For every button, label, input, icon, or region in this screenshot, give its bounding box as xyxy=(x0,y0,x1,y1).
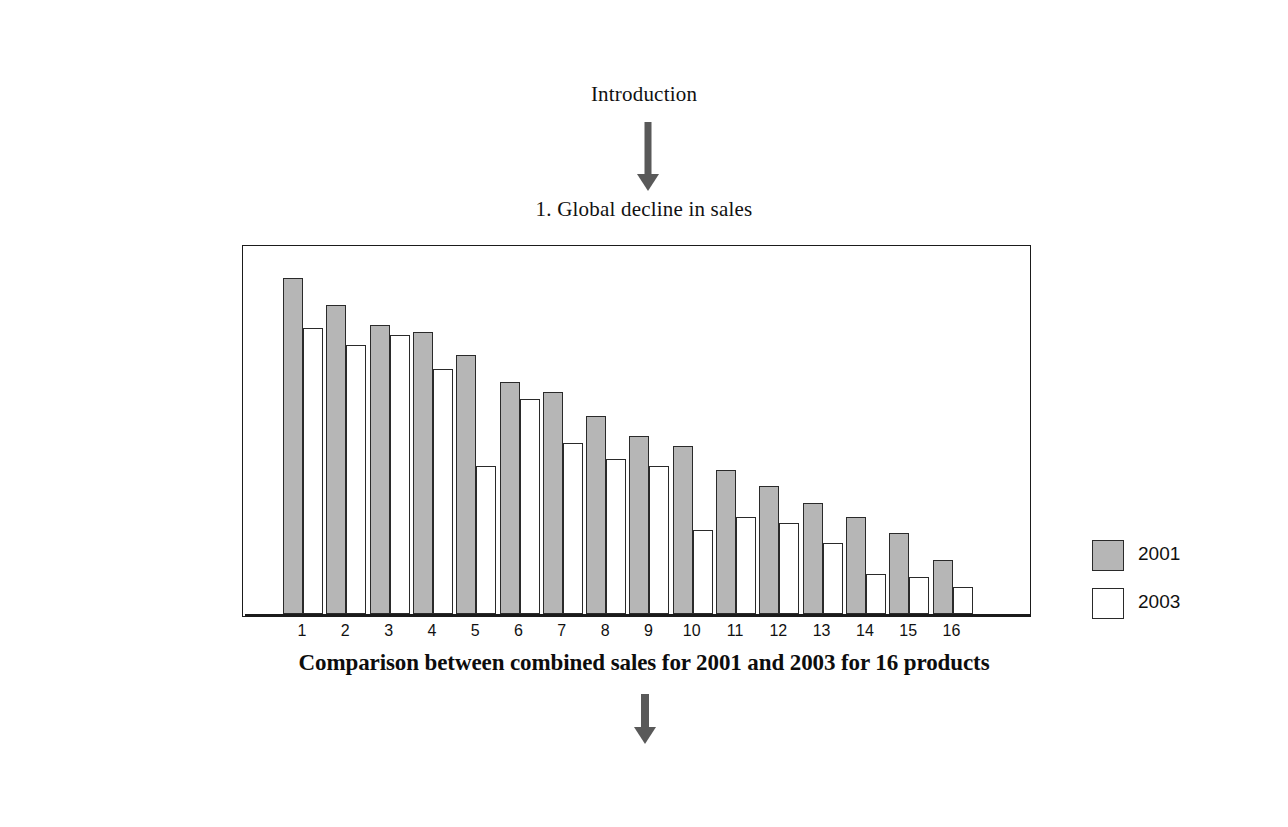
x-tick-label-7: 7 xyxy=(542,622,582,640)
bar-2001-4 xyxy=(413,332,433,614)
x-tick-label-5: 5 xyxy=(455,622,495,640)
x-tick-label-13: 13 xyxy=(802,622,842,640)
bar-2003-13 xyxy=(823,543,843,614)
bar-2001-15 xyxy=(889,533,909,614)
x-tick-label-14: 14 xyxy=(845,622,885,640)
bar-2003-4 xyxy=(433,369,453,614)
down-arrow-icon-top xyxy=(634,122,662,192)
x-tick-label-6: 6 xyxy=(499,622,539,640)
x-tick-label-1: 1 xyxy=(282,622,322,640)
bar-2001-13 xyxy=(803,503,823,614)
bar-2003-6 xyxy=(520,399,540,614)
bar-2001-12 xyxy=(759,486,779,614)
bar-2001-11 xyxy=(716,470,736,614)
x-tick-label-4: 4 xyxy=(412,622,452,640)
x-tick-label-9: 9 xyxy=(628,622,668,640)
bar-2003-5 xyxy=(476,466,496,614)
arrow-head xyxy=(634,727,656,744)
bar-2003-10 xyxy=(693,530,713,614)
x-axis-line xyxy=(245,614,1030,617)
legend-label-2003: 2003 xyxy=(1138,591,1180,613)
bar-2001-7 xyxy=(543,392,563,614)
arrow-shaft xyxy=(641,694,649,730)
bar-2003-7 xyxy=(563,443,583,614)
slide-page: Introduction 1. Global decline in sales … xyxy=(0,0,1288,827)
x-tick-label-3: 3 xyxy=(369,622,409,640)
bar-2003-15 xyxy=(909,577,929,614)
intro-heading: Introduction xyxy=(0,82,1288,107)
legend-label-2001: 2001 xyxy=(1138,543,1180,565)
plot-area xyxy=(243,246,1032,618)
bar-2003-2 xyxy=(346,345,366,614)
arrow-head xyxy=(637,174,659,191)
arrow-shaft xyxy=(645,122,652,177)
bar-2003-12 xyxy=(779,523,799,614)
chart-frame: 2001 2003 xyxy=(242,245,1031,617)
legend-swatch-2003 xyxy=(1092,588,1124,619)
x-tick-label-2: 2 xyxy=(325,622,365,640)
legend-swatch-2001 xyxy=(1092,540,1124,571)
section-heading: 1. Global decline in sales xyxy=(0,197,1288,222)
bar-2003-14 xyxy=(866,574,886,614)
bar-2001-16 xyxy=(933,560,953,614)
bar-2003-11 xyxy=(736,517,756,614)
bar-2001-6 xyxy=(500,382,520,614)
bar-2001-1 xyxy=(283,278,303,614)
down-arrow-icon-bottom xyxy=(631,694,659,746)
chart-caption: Comparison between combined sales for 20… xyxy=(0,650,1288,676)
bar-2003-16 xyxy=(953,587,973,614)
bar-2001-8 xyxy=(586,416,606,614)
bar-2001-14 xyxy=(846,517,866,614)
x-tick-label-16: 16 xyxy=(932,622,972,640)
bar-2003-9 xyxy=(649,466,669,614)
bar-2003-1 xyxy=(303,328,323,614)
bar-2003-8 xyxy=(606,459,626,614)
bar-2001-2 xyxy=(326,305,346,614)
x-tick-label-8: 8 xyxy=(585,622,625,640)
bar-2001-3 xyxy=(370,325,390,614)
x-tick-label-15: 15 xyxy=(888,622,928,640)
x-tick-label-11: 11 xyxy=(715,622,755,640)
bar-2001-9 xyxy=(629,436,649,614)
x-tick-label-12: 12 xyxy=(758,622,798,640)
bar-2001-5 xyxy=(456,355,476,614)
bar-2003-3 xyxy=(390,335,410,614)
x-tick-label-10: 10 xyxy=(672,622,712,640)
bar-2001-10 xyxy=(673,446,693,614)
